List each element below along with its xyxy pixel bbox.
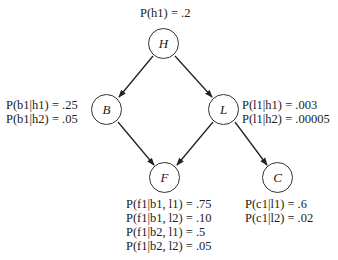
prob-b-line: P(b1|h2) = .05 <box>6 112 78 126</box>
edge-l-f <box>177 122 213 165</box>
node-l: L <box>208 94 239 125</box>
node-c-label: C <box>273 170 282 186</box>
prob-f-line: P(f1|b2, l1) = .5 <box>126 225 212 239</box>
edge-b-f <box>118 122 154 165</box>
node-b-label: B <box>103 102 111 118</box>
edge-l-c <box>235 122 267 165</box>
prob-c: P(c1|l1) = .6 P(c1|l2) = .02 <box>245 197 313 225</box>
prob-f: P(f1|b1, l1) = .75 P(f1|b1, l2) = .10 P(… <box>126 197 212 253</box>
prob-c-line: P(c1|l1) = .6 <box>245 197 313 211</box>
node-b: B <box>91 94 122 125</box>
prob-l: P(l1|h1) = .003 P(l1|h2) = .00005 <box>242 98 330 126</box>
prob-f-line: P(f1|b1, l2) = .10 <box>126 211 212 225</box>
prob-f-line: P(f1|b1, l1) = .75 <box>126 197 212 211</box>
prob-h-line: P(h1) = .2 <box>140 6 190 20</box>
node-l-label: L <box>220 102 227 118</box>
node-f-label: F <box>161 170 169 186</box>
prob-l-line: P(l1|h2) = .00005 <box>242 112 330 126</box>
prob-c-line: P(c1|l2) = .02 <box>245 211 313 225</box>
edge-h-b <box>119 56 153 97</box>
prob-b-line: P(b1|h1) = .25 <box>6 98 78 112</box>
node-h-label: H <box>159 36 168 52</box>
node-c: C <box>262 162 293 193</box>
node-f: F <box>149 162 180 193</box>
prob-b: P(b1|h1) = .25 P(b1|h2) = .05 <box>6 98 78 126</box>
prob-l-line: P(l1|h1) = .003 <box>242 98 330 112</box>
edge-h-l <box>175 56 212 97</box>
prob-f-line: P(f1|b2, l2) = .05 <box>126 239 212 253</box>
prob-h: P(h1) = .2 <box>140 6 190 20</box>
node-h: H <box>148 28 179 59</box>
